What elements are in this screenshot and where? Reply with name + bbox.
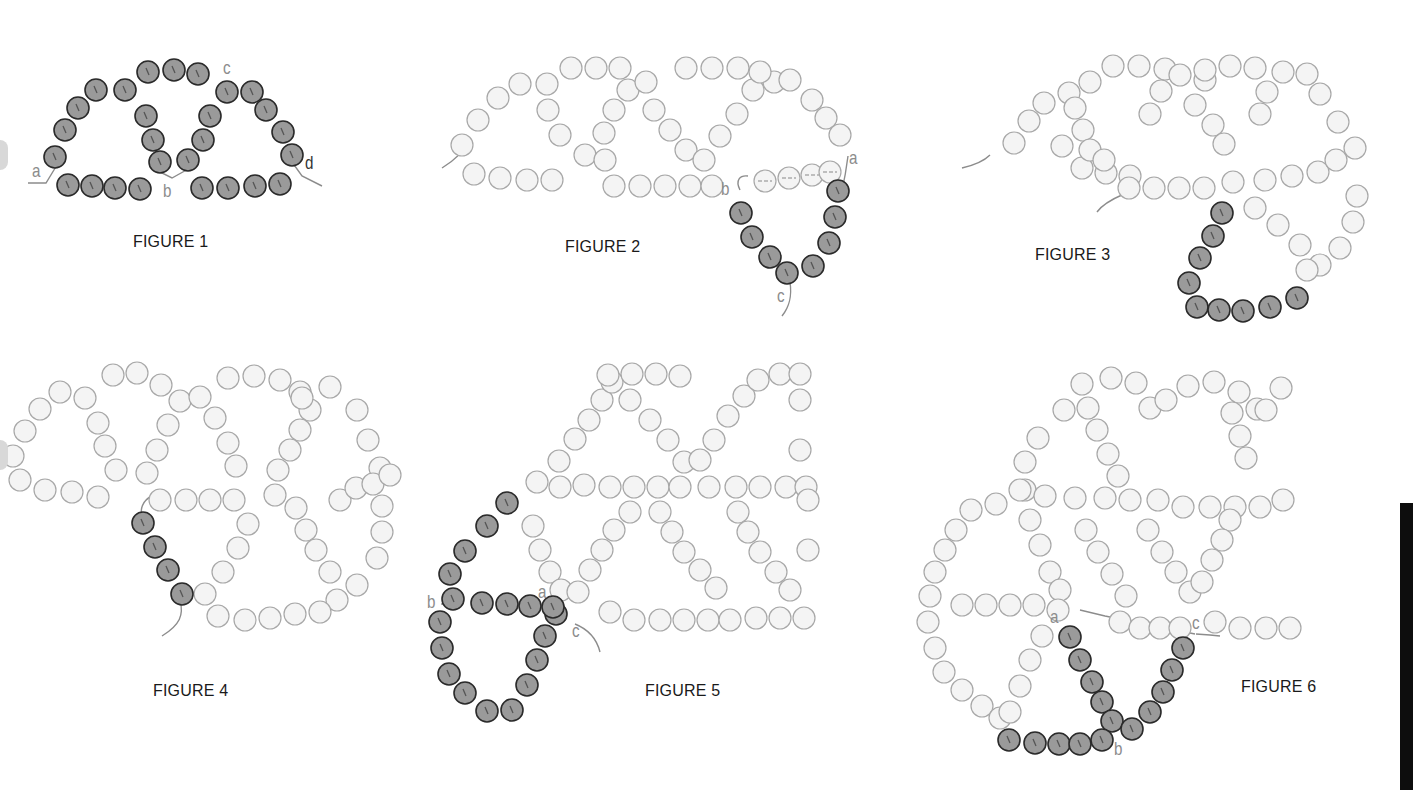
- bead-existing: [789, 389, 811, 411]
- bead-existing: [309, 601, 331, 623]
- bead-existing: [975, 594, 997, 616]
- bead-existing: [1051, 135, 1073, 157]
- bead-existing: [669, 365, 691, 387]
- bead-existing: [1072, 119, 1094, 141]
- bead-existing: [1168, 177, 1190, 199]
- figure-5-diagram: [429, 363, 819, 722]
- bead-existing: [1093, 149, 1115, 171]
- bead-existing: [346, 574, 368, 596]
- bead-existing: [319, 376, 341, 398]
- bead-existing: [747, 369, 769, 391]
- bead-existing: [701, 57, 723, 79]
- bead-existing: [985, 493, 1007, 515]
- bead-existing: [675, 57, 697, 79]
- bead-existing: [1199, 496, 1221, 518]
- bead-existing: [1244, 57, 1266, 79]
- bead-existing: [573, 474, 595, 496]
- figure-2-label-b: b: [721, 178, 729, 200]
- figure-3-caption: FIGURE 3: [1035, 246, 1110, 264]
- bead-existing: [1342, 211, 1364, 233]
- bead-existing: [14, 420, 36, 442]
- bead-existing: [9, 469, 31, 491]
- bead-existing: [789, 363, 811, 385]
- bead-existing: [599, 601, 621, 623]
- bead-existing: [1109, 611, 1131, 633]
- bead-existing: [267, 459, 289, 481]
- bead-existing: [225, 455, 247, 477]
- bead-existing: [769, 363, 791, 385]
- bead-existing: [673, 541, 695, 563]
- bead-existing: [1270, 377, 1292, 399]
- bead-existing: [1193, 177, 1215, 199]
- bead-existing: [379, 464, 401, 486]
- bead-existing: [463, 163, 485, 185]
- bead-existing: [1137, 519, 1159, 541]
- bead-existing: [697, 609, 719, 631]
- bead-existing: [1344, 137, 1366, 159]
- bead-existing: [1177, 375, 1199, 397]
- bead-existing: [1019, 649, 1041, 671]
- bead-existing: [1254, 169, 1276, 191]
- bead-existing: [1219, 509, 1241, 531]
- bead-existing: [749, 476, 771, 498]
- bead-existing: [204, 407, 226, 429]
- bead-existing: [603, 519, 625, 541]
- figure-6-label-a: a: [1050, 606, 1058, 628]
- bead-existing: [1101, 563, 1123, 585]
- bead-existing: [285, 497, 307, 519]
- bead-existing: [1031, 625, 1053, 647]
- bead-existing: [1009, 479, 1031, 501]
- bead-existing: [645, 363, 667, 385]
- bead-existing: [1309, 83, 1331, 105]
- beading-instructions-sheet: FIGURE 1 FIGURE 2 FIGURE 3 FIGURE 4 FIGU…: [0, 0, 1413, 790]
- bead-existing: [829, 124, 851, 146]
- bead-existing: [1034, 485, 1056, 507]
- bead-existing: [727, 501, 749, 523]
- bead-existing: [709, 125, 731, 147]
- bead-existing: [371, 521, 393, 543]
- figure-6-label-c: c: [1192, 612, 1200, 634]
- bead-existing: [649, 609, 671, 631]
- figure-4-diagram: [2, 362, 401, 636]
- bead-existing: [1009, 675, 1031, 697]
- bead-existing: [522, 515, 544, 537]
- bead-existing: [649, 501, 671, 523]
- bead-existing: [526, 471, 548, 493]
- bead-existing: [689, 449, 711, 471]
- bead-existing: [1327, 111, 1349, 133]
- bead-existing: [775, 476, 797, 498]
- bead-existing: [560, 57, 582, 79]
- thread-path: [1196, 634, 1220, 636]
- bead-existing: [693, 149, 715, 171]
- bead-existing: [1249, 496, 1271, 518]
- bead-existing: [1018, 110, 1040, 132]
- bead-existing: [1064, 487, 1086, 509]
- bead-existing: [1267, 214, 1289, 236]
- bead-existing: [1213, 133, 1235, 155]
- page-edge-bar: [1400, 503, 1413, 790]
- bead-existing: [357, 429, 379, 451]
- bead-existing: [207, 605, 229, 627]
- bead-existing: [1149, 617, 1171, 639]
- bead-existing: [169, 390, 191, 412]
- bead-existing: [599, 476, 621, 498]
- bead-existing: [1102, 55, 1124, 77]
- bead-existing: [1119, 489, 1141, 511]
- bead-existing: [295, 519, 317, 541]
- bead-existing: [489, 167, 511, 189]
- bead-existing: [223, 489, 245, 511]
- bead-existing: [924, 637, 946, 659]
- bead-existing: [1150, 80, 1172, 102]
- figure-6-diagram: [917, 367, 1301, 755]
- bead-existing: [34, 479, 56, 501]
- bead-existing: [951, 594, 973, 616]
- bead-existing: [1279, 617, 1301, 639]
- bead-existing: [289, 419, 311, 441]
- figure-5-label-c: c: [572, 620, 580, 642]
- figure-2-diagram: [442, 57, 851, 316]
- bead-existing: [597, 364, 619, 386]
- bead-existing: [1221, 402, 1243, 424]
- bead-existing: [1202, 114, 1224, 136]
- bead-diagrams-canvas: [0, 0, 1413, 790]
- bead-existing: [1329, 237, 1351, 259]
